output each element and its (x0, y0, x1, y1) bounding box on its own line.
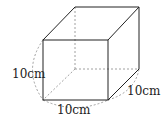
width-label: 10cm (57, 103, 91, 117)
hidden-edges (43, 7, 139, 100)
height-label: 10cm (12, 67, 46, 81)
dimension-arcs (33, 40, 140, 108)
cube-diagram: 10cm 10cm 10cm (0, 0, 162, 120)
depth-label: 10cm (127, 84, 161, 98)
